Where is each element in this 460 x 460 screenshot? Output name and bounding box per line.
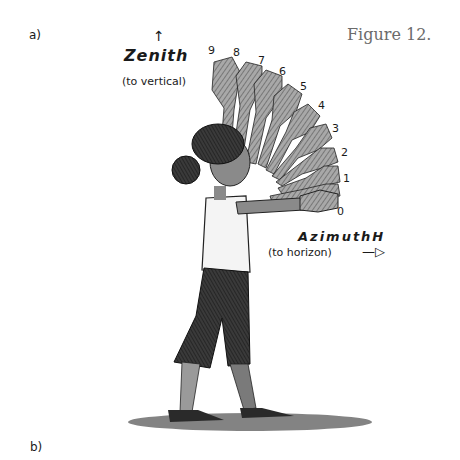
neck <box>214 186 226 200</box>
hand-number-6: 6 <box>279 65 286 78</box>
hand-number-4: 4 <box>318 99 325 112</box>
girl-illustration <box>0 0 460 460</box>
leg-back <box>180 362 200 412</box>
hand-number-5: 5 <box>300 80 307 93</box>
hand-number-8: 8 <box>233 46 240 59</box>
hand-number-7: 7 <box>258 54 265 67</box>
hand-number-1: 1 <box>343 172 350 185</box>
hand-number-3: 3 <box>332 122 339 135</box>
hand-number-0: 0 <box>337 205 344 218</box>
leg-front <box>230 364 256 410</box>
hand-number-2: 2 <box>341 146 348 159</box>
hand-number-9: 9 <box>208 44 215 57</box>
pants <box>174 268 250 368</box>
hair-bun <box>172 156 200 184</box>
hair <box>192 124 244 164</box>
